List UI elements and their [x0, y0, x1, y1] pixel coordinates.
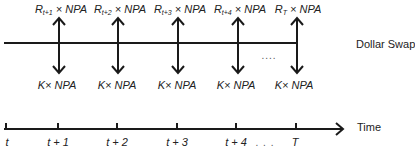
notional-term: × NPA — [175, 3, 206, 15]
time-tick-label-t4: t + 4 — [225, 136, 247, 148]
time-tick-label-t: t — [5, 136, 8, 148]
time-label: Time — [357, 121, 381, 133]
time-tick-label-T: T — [292, 136, 299, 148]
cashflow-arrow-5 — [291, 18, 303, 73]
time-ellipsis: . . . — [256, 137, 275, 148]
swap-ellipsis: .... — [261, 50, 276, 61]
time-tick-label-t1: t + 1 — [47, 136, 69, 148]
notional-term: × NPA — [235, 3, 266, 15]
receive-label-2: Rt+2 × NPA — [94, 3, 146, 16]
pay-label-4: K× NPA — [217, 79, 256, 91]
receive-label-1: Rt+1 × NPA — [35, 3, 87, 16]
rate-symbol: R — [35, 3, 43, 15]
rate-symbol: R — [214, 3, 222, 15]
rate-subscript: t+4 — [222, 9, 232, 16]
cashflow-arrow-4 — [232, 18, 244, 73]
pay-label-3: K× NPA — [158, 79, 197, 91]
receive-label-3: Rt+3 × NPA — [154, 3, 206, 16]
cashflow-arrow-2 — [112, 18, 124, 73]
rate-subscript: t+3 — [162, 9, 172, 16]
notional-term: × NPA — [290, 3, 321, 15]
time-tick-label-t3: t + 3 — [166, 136, 188, 148]
rate-subscript: T — [283, 9, 287, 16]
dollar-swap-label: Dollar Swap — [356, 38, 415, 50]
rate-subscript: t+1 — [43, 9, 53, 16]
pay-label-5: K× NPA — [275, 79, 314, 91]
pay-label-1: K× NPA — [38, 79, 77, 91]
cashflow-arrow-1 — [53, 18, 65, 73]
time-tick-label-t2: t + 2 — [106, 136, 128, 148]
notional-term: × NPA — [115, 3, 146, 15]
rate-subscript: t+2 — [102, 9, 112, 16]
receive-label-5: RT × NPA — [275, 3, 322, 16]
cashflow-arrow-3 — [172, 18, 184, 73]
rate-symbol: R — [154, 3, 162, 15]
receive-label-4: Rt+4 × NPA — [214, 3, 266, 16]
notional-term: × NPA — [56, 3, 87, 15]
pay-label-2: K× NPA — [98, 79, 137, 91]
rate-symbol: R — [275, 3, 283, 15]
rate-symbol: R — [94, 3, 102, 15]
